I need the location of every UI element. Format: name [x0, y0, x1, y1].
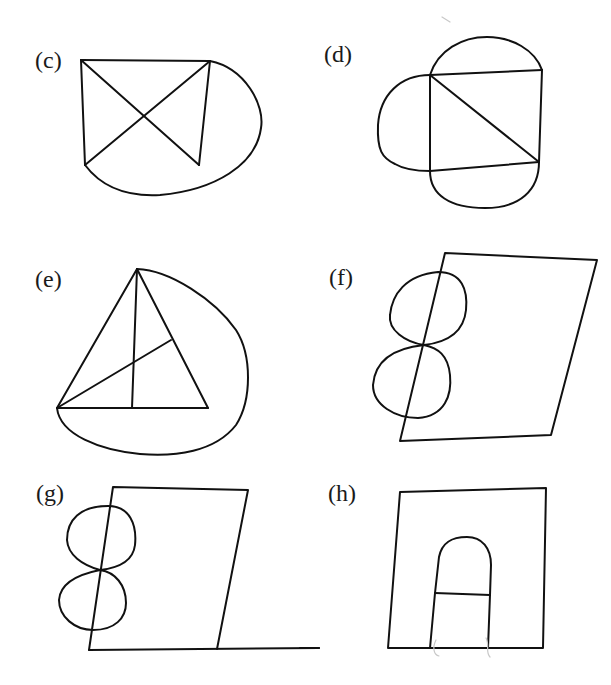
figure-c-left-edge: [81, 60, 85, 165]
figure-f-upper-loop: [390, 272, 467, 345]
figure-d-top-arc: [430, 37, 542, 75]
figure-d-label: (d): [324, 41, 352, 67]
figure-f-label: (f): [329, 264, 353, 290]
figure-e: (e): [35, 266, 248, 455]
figure-e-outer-curve: [57, 269, 248, 455]
figure-c-outer-curve: [85, 61, 262, 195]
figure-c-top-edge: [81, 60, 210, 61]
figure-h: (h): [300, 480, 546, 657]
figure-d: (d): [324, 37, 542, 208]
figure-c-label: (c): [35, 47, 62, 73]
figure-e-vertical-line: [132, 269, 137, 408]
figure-g-upper-loop: [67, 506, 135, 570]
stray-mark: [442, 17, 450, 22]
figure-d-bottom-edge: [430, 162, 539, 171]
figure-e-right-side: [137, 269, 208, 408]
figure-e-label: (e): [35, 266, 62, 292]
figure-d-diagonal: [430, 75, 539, 162]
figure-sheet: (c) (d) (e) (f) (g): [0, 0, 611, 685]
figure-c-right-edge: [199, 61, 210, 165]
figure-e-cevian-line: [57, 340, 171, 408]
figure-d-right-edge: [539, 70, 542, 162]
figure-c: (c): [35, 47, 262, 195]
figure-f-lower-loop: [373, 345, 450, 418]
figure-h-square: [388, 488, 546, 648]
figure-h-arch-bar: [435, 593, 490, 595]
figure-g: (g): [36, 480, 319, 650]
figure-f: (f): [329, 253, 597, 441]
figure-c-diagonal-2: [85, 61, 210, 165]
figure-e-left-side: [57, 269, 137, 408]
figure-c-diagonal-1: [81, 60, 199, 165]
figure-g-label: (g): [36, 480, 64, 506]
figure-d-left-arc: [378, 75, 430, 171]
figure-g-baseline: [89, 648, 319, 650]
figure-d-top-edge: [430, 70, 542, 75]
figure-h-label: (h): [328, 480, 356, 506]
